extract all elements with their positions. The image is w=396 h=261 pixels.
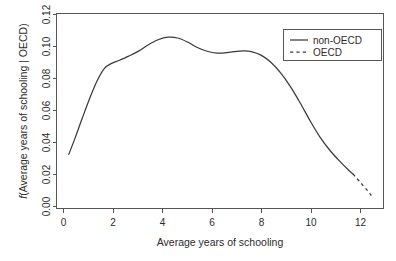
y-tick-label: 0.06 <box>41 100 52 120</box>
x-tick-label: 0 <box>61 217 67 228</box>
y-axis-ticks <box>53 15 57 207</box>
y-tick-label: 0.02 <box>41 164 52 184</box>
x-tick-label: 6 <box>209 217 215 228</box>
x-axis-ticks <box>64 209 361 213</box>
x-axis-title: Average years of schooling <box>157 236 284 248</box>
x-tick-label: 2 <box>110 217 116 228</box>
y-axis-title: f(Average years of schooling | OECD) <box>17 23 29 198</box>
legend-label-oecd: OECD <box>313 47 342 58</box>
x-tick-label: 10 <box>305 217 317 228</box>
y-tick-label: 0.04 <box>41 132 52 152</box>
x-tick-label: 8 <box>259 217 265 228</box>
y-tick-label: 0.10 <box>41 36 52 56</box>
y-tick-label: 0.00 <box>41 196 52 216</box>
y-axis-tick-labels: 0.12 0.10 0.08 0.06 0.04 0.02 0.00 <box>41 4 52 216</box>
chart-figure: 0.12 0.10 0.08 0.06 0.04 0.02 0.00 0 2 4… <box>0 0 396 261</box>
y-tick-label: 0.08 <box>41 68 52 88</box>
series-line-oecd <box>353 174 371 196</box>
density-plot-svg: 0.12 0.10 0.08 0.06 0.04 0.02 0.00 0 2 4… <box>0 0 396 261</box>
y-axis-title-rest: (Average years of schooling | OECD) <box>17 23 29 195</box>
y-tick-label: 0.12 <box>41 4 52 24</box>
legend-label-non-oecd: non-OECD <box>313 35 362 46</box>
x-tick-label: 12 <box>355 217 367 228</box>
legend[interactable]: non-OECD OECD <box>284 30 382 61</box>
x-tick-label: 4 <box>160 217 166 228</box>
svg-text:f(Average years of schooling |: f(Average years of schooling | OECD) <box>17 23 29 198</box>
x-axis-tick-labels: 0 2 4 6 8 10 12 <box>61 217 367 228</box>
